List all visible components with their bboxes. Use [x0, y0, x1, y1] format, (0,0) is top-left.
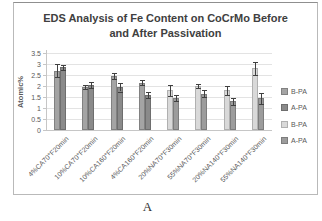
legend-swatch: [281, 104, 288, 111]
chart-area: EDS Analysis of Fe Content on CoCrMo Bef…: [13, 2, 318, 195]
legend-label: A-PA: [291, 137, 307, 145]
legend-item: B-PA: [281, 87, 317, 96]
legend-swatch: [281, 137, 288, 144]
legend-label: B-PA: [291, 121, 307, 129]
legend: B-PAA-PAB-PAA-PA: [14, 3, 317, 194]
legend-label: A-PA: [291, 104, 307, 112]
legend-label: B-PA: [291, 88, 307, 96]
legend-swatch: [281, 88, 288, 95]
legend-item: A-PA: [281, 103, 317, 112]
figure: EDS Analysis of Fe Content on CoCrMo Bef…: [0, 0, 322, 221]
figure-caption-label: A: [0, 199, 295, 215]
legend-item: A-PA: [281, 136, 317, 145]
legend-swatch: [281, 121, 288, 128]
legend-item: B-PA: [281, 120, 317, 129]
